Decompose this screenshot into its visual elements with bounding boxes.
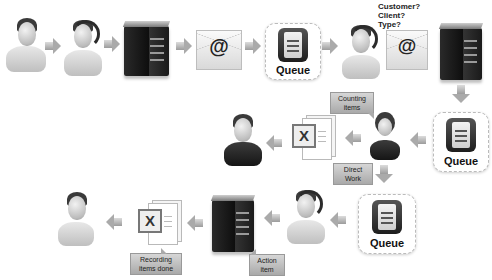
question-type: Type? bbox=[378, 20, 420, 29]
arrow-right-icon bbox=[322, 38, 338, 54]
queue-box: Queue bbox=[433, 112, 489, 172]
at-symbol: @ bbox=[197, 35, 241, 58]
email-icon: @ bbox=[386, 30, 428, 70]
excel-document-icon: X bbox=[138, 200, 184, 244]
arrow-left-icon bbox=[345, 130, 361, 146]
arrow-left-icon bbox=[187, 215, 203, 231]
server-icon bbox=[124, 26, 169, 76]
queue-box: Queue bbox=[265, 23, 321, 80]
customer-person-icon bbox=[4, 18, 48, 74]
excel-document-icon: X bbox=[292, 115, 338, 159]
queue-label: Queue bbox=[359, 237, 415, 249]
question-customer: Customer? bbox=[378, 2, 420, 11]
manager-suit-icon bbox=[222, 114, 264, 168]
server-icon bbox=[440, 28, 482, 80]
classification-questions: Customer? Client? Type? bbox=[378, 2, 420, 29]
question-client: Client? bbox=[378, 11, 420, 20]
at-symbol: @ bbox=[387, 35, 427, 57]
server-icon bbox=[212, 200, 254, 252]
direct-work-callout: Direct Work bbox=[333, 163, 373, 185]
arrow-down-icon bbox=[452, 85, 470, 103]
agent-headset-icon bbox=[285, 190, 327, 246]
arrow-right-icon bbox=[45, 38, 61, 54]
excel-x-label: X bbox=[138, 209, 162, 233]
queue-box: Queue bbox=[358, 194, 416, 254]
email-icon: @ bbox=[196, 30, 242, 70]
queue-list-icon bbox=[446, 118, 476, 152]
action-item-callout: Action item bbox=[249, 254, 285, 276]
agent-headset-icon bbox=[62, 20, 104, 78]
arrow-right-icon bbox=[176, 38, 192, 54]
customer-person-icon bbox=[56, 192, 96, 248]
counting-items-callout: Counting items bbox=[330, 92, 374, 114]
arrow-left-icon bbox=[106, 214, 122, 230]
arrow-left-icon bbox=[264, 210, 280, 226]
excel-x-label: X bbox=[292, 124, 316, 148]
queue-label: Queue bbox=[266, 64, 320, 76]
queue-list-icon bbox=[372, 200, 402, 234]
arrow-left-icon bbox=[330, 212, 346, 228]
operator-female-headset-icon bbox=[368, 112, 402, 162]
arrow-right-icon bbox=[104, 36, 120, 52]
queue-list-icon bbox=[278, 28, 308, 62]
agent-headset-icon bbox=[340, 25, 382, 81]
recording-items-done-callout: Recording items done bbox=[130, 253, 182, 275]
queue-label: Queue bbox=[434, 155, 488, 167]
arrow-left-icon bbox=[410, 132, 426, 148]
arrow-left-icon bbox=[266, 135, 282, 151]
arrow-down-icon bbox=[375, 165, 393, 183]
arrow-right-icon bbox=[245, 38, 261, 54]
